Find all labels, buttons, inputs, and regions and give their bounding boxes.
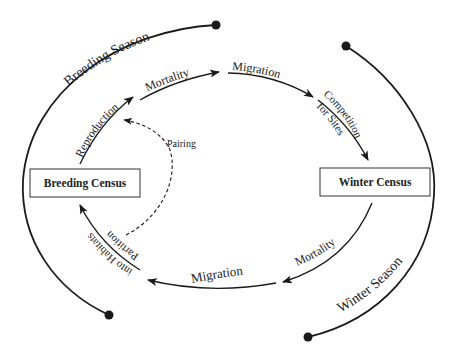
- winter-census-label: Winter Census: [339, 176, 412, 188]
- breeding-season-end-dot: [105, 311, 114, 320]
- breeding-census-label: Breeding Census: [44, 177, 127, 190]
- winter-season-label: Winter Season: [335, 253, 406, 315]
- mortality-top-label: Mortality: [143, 65, 191, 94]
- annual-cycle-diagram: Breeding Season Winter Season Reproducti…: [0, 0, 456, 362]
- winter-season-start-dot: [342, 42, 351, 51]
- pairing-label: Pairing: [167, 138, 196, 149]
- mortality-bottom-label: Mortality: [293, 235, 338, 269]
- migration-bottom-label: Migration: [190, 263, 245, 286]
- breeding-census-node: Breeding Census: [30, 169, 140, 197]
- breeding-season-start-dot: [212, 21, 221, 30]
- winter-census-node: Winter Census: [320, 168, 430, 196]
- migration-top-label: Migration: [232, 59, 282, 81]
- winter-season-end-dot: [304, 333, 313, 342]
- reproduction-label: Reproduction: [73, 101, 121, 159]
- breeding-season-label: Breeding Season: [61, 29, 151, 89]
